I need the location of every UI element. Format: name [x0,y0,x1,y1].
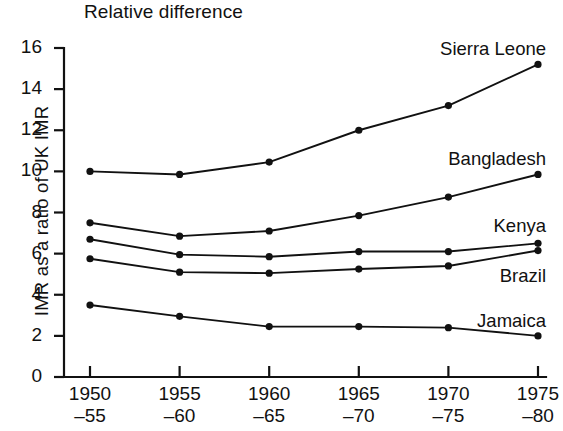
x-tick-label-line1: 1965 [338,383,380,404]
data-point-jamaica-2 [266,323,273,330]
data-point-kenya-5 [534,240,541,247]
series-label-brazil: Brazil [500,265,546,287]
y-tick-label: 2 [8,324,42,346]
y-tick-label: 16 [8,36,42,58]
x-tick-label-line2: –60 [138,405,222,427]
data-point-jamaica-5 [534,332,541,339]
data-point-kenya-0 [86,236,93,243]
data-point-kenya-4 [445,248,452,255]
x-tick-label: 1955–60 [138,383,222,427]
x-tick-label-line2: –75 [406,405,490,427]
data-point-bangladesh-0 [86,219,93,226]
y-tick-label: 0 [8,365,42,387]
series-line-kenya [90,239,538,256]
data-point-sierra-leone-1 [176,171,183,178]
x-tick-label: 1965–70 [317,383,401,427]
x-tick-label: 1950–55 [48,383,132,427]
data-point-brazil-1 [176,269,183,276]
y-tick-label: 14 [8,77,42,99]
data-point-sierra-leone-0 [86,168,93,175]
data-point-brazil-2 [266,270,273,277]
y-tick-label: 12 [8,118,42,140]
data-point-bangladesh-4 [445,193,452,200]
series-label-jamaica: Jamaica [477,310,546,332]
data-point-jamaica-1 [176,313,183,320]
x-tick-label-line1: 1960 [248,383,290,404]
data-point-sierra-leone-5 [534,61,541,68]
data-point-brazil-4 [445,262,452,269]
x-tick-label-line1: 1975 [517,383,559,404]
x-tick-label: 1975–80 [496,383,563,427]
series-label-kenya: Kenya [494,215,546,237]
data-point-bangladesh-2 [266,227,273,234]
data-series-group [86,61,541,340]
series-line-jamaica [90,305,538,336]
x-tick-label-line2: –55 [48,405,132,427]
data-point-brazil-5 [534,247,541,254]
series-label-sierra-leone: Sierra Leone [440,38,546,60]
data-point-sierra-leone-2 [266,159,273,166]
data-point-brazil-3 [355,265,362,272]
data-point-jamaica-4 [445,324,452,331]
y-tick-label: 10 [8,159,42,181]
series-line-bangladesh [90,174,538,236]
x-tick-label-line2: –65 [227,405,311,427]
y-tick-label: 4 [8,283,42,305]
y-tick-label: 8 [8,201,42,223]
data-point-jamaica-0 [86,301,93,308]
x-tick-label: 1970–75 [406,383,490,427]
data-point-bangladesh-5 [534,171,541,178]
data-point-kenya-1 [176,251,183,258]
data-point-bangladesh-1 [176,233,183,240]
data-point-bangladesh-3 [355,212,362,219]
data-point-jamaica-3 [355,323,362,330]
data-point-kenya-2 [266,253,273,260]
x-tick-label-line2: –70 [317,405,401,427]
y-tick-label: 6 [8,242,42,264]
data-point-kenya-3 [355,248,362,255]
data-point-brazil-0 [86,255,93,262]
data-point-sierra-leone-3 [355,127,362,134]
x-tick-label-line1: 1970 [427,383,469,404]
x-tick-label-line1: 1955 [158,383,200,404]
x-tick-label-line2: –80 [496,405,563,427]
x-tick-label-line1: 1950 [69,383,111,404]
series-label-bangladesh: Bangladesh [448,148,546,170]
axes [54,48,546,377]
x-tick-label: 1960–65 [227,383,311,427]
data-point-sierra-leone-4 [445,102,452,109]
